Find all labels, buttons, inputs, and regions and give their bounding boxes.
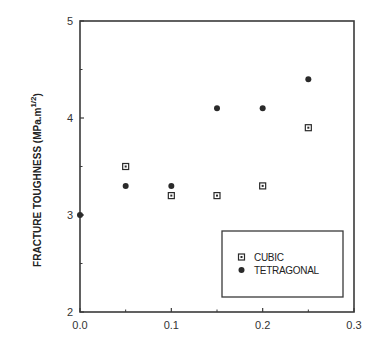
cubic-square-marker-dot bbox=[216, 195, 218, 197]
y-axis-ticks: 2345 bbox=[67, 15, 84, 318]
x-tick-label: 0.0 bbox=[72, 319, 87, 331]
square-marker-dot bbox=[241, 256, 243, 258]
tetragonal-circle-marker bbox=[77, 212, 83, 218]
legend-label-tetragonal: TETRAGONAL bbox=[254, 265, 320, 276]
x-tick-label: 0.1 bbox=[164, 319, 179, 331]
legend-label-cubic: CUBIC bbox=[254, 252, 284, 263]
y-tick-label: 2 bbox=[67, 306, 73, 318]
y-tick-label: 3 bbox=[67, 209, 73, 221]
x-tick-label: 0.3 bbox=[346, 319, 361, 331]
tetragonal-circle-marker bbox=[214, 105, 220, 111]
y-tick-label: 4 bbox=[67, 112, 73, 124]
y-axis-title: FRACTURE TOUGHNESS (MPa.m1/2) bbox=[29, 93, 43, 267]
cubic-square-marker-dot bbox=[262, 185, 264, 187]
x-tick-label: 0.2 bbox=[255, 319, 270, 331]
cubic-square-marker-dot bbox=[125, 166, 127, 168]
y-tick-label: 5 bbox=[67, 15, 73, 27]
y-axis-title-text: FRACTURE TOUGHNESS (MPa.m bbox=[32, 107, 43, 266]
tetragonal-circle-marker bbox=[123, 183, 129, 189]
tetragonal-circle-marker bbox=[168, 183, 174, 189]
scatter-chart: 0.00.10.20.3 2345 FRACTURE TOUGHNESS (MP… bbox=[0, 0, 380, 350]
data-points bbox=[77, 76, 311, 218]
y-axis-title-superscript: 1/2 bbox=[29, 96, 38, 108]
tetragonal-circle-marker bbox=[305, 76, 311, 82]
tetragonal-circle-marker bbox=[260, 105, 266, 111]
legend-box bbox=[222, 231, 343, 297]
cubic-square-marker-dot bbox=[170, 195, 172, 197]
cubic-square-marker-dot bbox=[307, 127, 309, 129]
legend: CUBIC TETRAGONAL bbox=[222, 231, 343, 297]
circle-marker-icon bbox=[239, 267, 245, 273]
y-axis-title-close: ) bbox=[32, 93, 43, 96]
